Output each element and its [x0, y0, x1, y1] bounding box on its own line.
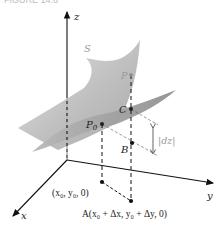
b-label: B: [120, 144, 128, 155]
y-axis: [67, 160, 213, 183]
p0-label-sub: 0: [93, 124, 98, 132]
surface-label: S: [84, 43, 91, 54]
point-base: [100, 180, 104, 184]
a-point-label: A(x₀ + Δx, y₀ + Δy, 0): [82, 209, 167, 220]
differential-geometry-figure: FIGURE 14.6 z x y |dz| S P C P0 B (x₀, y…: [0, 0, 222, 234]
base-point-label: (x₀, y₀, 0): [52, 188, 89, 199]
base-segment-dashed: [102, 182, 131, 201]
c-guide-line: [131, 109, 158, 125]
point-c: [129, 107, 133, 111]
point-p0: [100, 122, 104, 126]
figure-title-partial: FIGURE 14.6: [4, 0, 58, 5]
dz-label: |dz|: [158, 135, 176, 147]
c-label: C: [119, 104, 127, 115]
point-p: [129, 73, 133, 77]
x-axis-label: x: [21, 210, 27, 221]
b-guide-line: [102, 124, 158, 156]
point-a: [129, 199, 133, 203]
p-label: P: [120, 70, 128, 81]
y-axis-label: y: [206, 190, 213, 201]
z-axis-label: z: [73, 11, 80, 22]
point-b: [130, 141, 134, 145]
